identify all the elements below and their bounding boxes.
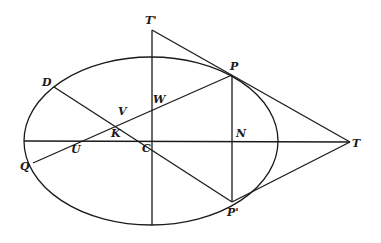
tangent-line-tprime-t	[152, 30, 350, 142]
tangent-line-pprime-t	[232, 142, 350, 202]
label-v: V	[118, 105, 128, 118]
label-u: U	[71, 143, 82, 156]
label-p-prime: P'	[226, 206, 239, 219]
label-p: P	[229, 60, 239, 73]
chord-line-q-p	[33, 75, 232, 163]
label-d: D	[41, 76, 52, 89]
geometry-diagram: T' P P' T N D Q U V K W C	[0, 0, 381, 243]
label-t: T	[352, 137, 361, 150]
major-axis-line	[24, 141, 350, 142]
label-w: W	[153, 93, 167, 106]
label-q: Q	[20, 160, 30, 173]
label-t-prime: T'	[145, 14, 157, 27]
label-c: C	[142, 142, 151, 155]
label-n: N	[235, 127, 247, 140]
label-k: K	[110, 127, 121, 140]
